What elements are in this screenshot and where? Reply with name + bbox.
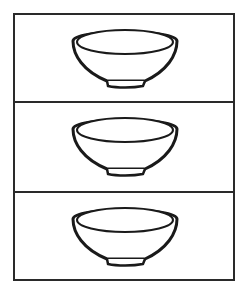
outer-frame [13,13,235,281]
bowl-icon [67,203,183,271]
bowl-icon [67,25,183,93]
panel-2 [15,103,233,191]
panel-3 [15,193,233,279]
panel-1 [15,15,233,101]
bowl-icon [67,113,183,181]
